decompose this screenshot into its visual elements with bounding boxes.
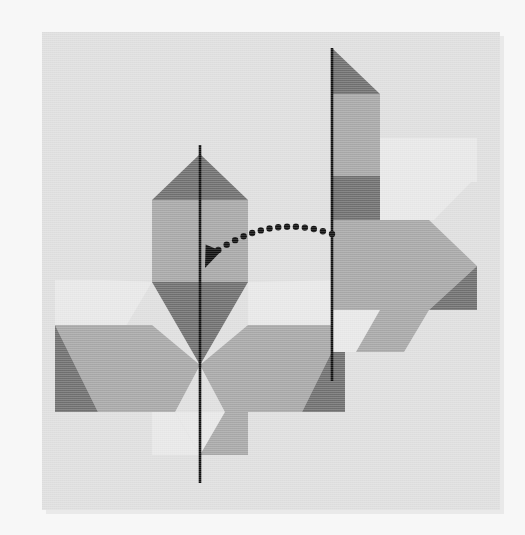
arrow-dot <box>302 224 308 230</box>
half-mid-light-b <box>380 176 477 220</box>
puzzle-canvas <box>42 32 500 510</box>
arrow-dot <box>320 228 326 234</box>
puzzle-card <box>42 32 500 510</box>
arrow-dot <box>275 224 281 230</box>
half-top-dark <box>332 48 380 94</box>
arrow-dot <box>329 231 335 237</box>
puzzle-stage <box>0 0 525 535</box>
arrow-dot <box>311 226 317 232</box>
right-rhombus-light <box>248 280 345 325</box>
arrow-dot <box>223 242 229 248</box>
arrow-dot <box>258 227 264 233</box>
arrow-dot <box>284 224 290 230</box>
arrow-dot <box>293 224 299 230</box>
arrow-dot <box>232 237 238 243</box>
arrow-dot <box>240 233 246 239</box>
arrow-dot <box>249 230 255 236</box>
half-mid-dark <box>332 176 380 220</box>
half-mid-light <box>380 138 477 182</box>
right-figure <box>332 48 477 352</box>
arrow-dot <box>266 225 272 231</box>
half-top-medium <box>332 94 380 176</box>
